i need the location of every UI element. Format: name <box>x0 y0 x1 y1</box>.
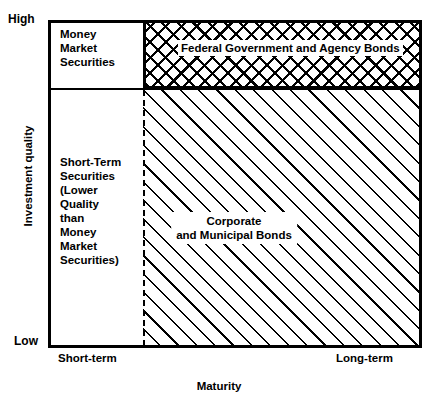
plot-frame-bottom-axis <box>48 345 422 348</box>
label-short-term-securities: Short-Term Securities (Lower Quality tha… <box>60 155 121 267</box>
y-axis-tick-high: High <box>8 12 35 26</box>
plot-frame-right <box>419 20 422 348</box>
x-axis-title: Maturity <box>149 380 289 392</box>
label-short-term-line-2: Securities <box>60 169 121 183</box>
y-axis-tick-low: Low <box>14 334 38 348</box>
corporate-region-top-edge <box>143 87 422 90</box>
x-axis-tick-short-term: Short-term <box>58 352 117 364</box>
label-short-term-line-1: Short-Term <box>60 155 121 169</box>
label-short-term-line-3: (Lower <box>60 183 121 197</box>
investment-quality-maturity-diagram: Money Market Securities Short-Term Secur… <box>0 0 438 408</box>
label-federal-government-agency-bonds: Federal Government and Agency Bonds <box>178 40 403 56</box>
label-short-term-line-6: Money <box>60 225 121 239</box>
money-market-divider-line <box>48 88 146 90</box>
label-money-market-line-2: Market <box>60 41 115 55</box>
x-axis-tick-long-term: Long-term <box>336 352 393 364</box>
plot-frame-top <box>48 20 422 23</box>
label-corporate-municipal-bonds: Corporate and Municipal Bonds <box>171 212 297 244</box>
label-money-market-line-1: Money <box>60 27 115 41</box>
y-axis-title: Investment quality <box>22 96 34 256</box>
label-short-term-line-8: Securities) <box>60 253 121 267</box>
corporate-region-left-dashed-edge <box>143 90 145 346</box>
label-corporate-line-1: Corporate <box>176 214 292 228</box>
label-short-term-line-5: than <box>60 211 121 225</box>
label-money-market-securities: Money Market Securities <box>60 27 115 69</box>
label-money-market-line-3: Securities <box>60 55 115 69</box>
label-corporate-line-2: and Municipal Bonds <box>176 228 292 242</box>
plot-frame-left-axis <box>48 20 51 348</box>
label-short-term-line-7: Market <box>60 239 121 253</box>
label-short-term-line-4: Quality <box>60 197 121 211</box>
